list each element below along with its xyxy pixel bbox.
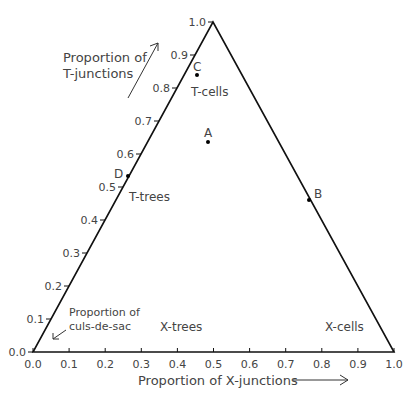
y-tick-label: 0.8	[153, 82, 171, 95]
y-tick-label: 0.2	[45, 280, 63, 293]
x-tick-label: 0.8	[313, 358, 331, 371]
x-tick-label: 1.0	[385, 358, 403, 371]
x-tick-label: 0.1	[60, 358, 78, 371]
corner-label-line2: culs-de-sac	[69, 320, 131, 333]
x-tick-label: 0.6	[241, 358, 259, 371]
corner-arrow-icon	[53, 330, 66, 339]
region-label-xcells: X-cells	[325, 320, 364, 334]
x-tick-label: 0.3	[133, 358, 151, 371]
x-tick-label: 0.0	[24, 358, 42, 371]
x-tick-label: 0.5	[205, 358, 223, 371]
corner-label-line1: Proportion of	[69, 306, 141, 319]
x-tick-label: 0.9	[349, 358, 367, 371]
point-d-label: D	[114, 167, 123, 181]
y-tick-label: 1.0	[189, 16, 207, 29]
point-b-label: B	[314, 187, 322, 201]
y-tick-label: 0.5	[99, 181, 117, 194]
point-a	[206, 140, 210, 144]
y-tick-label: 0.6	[117, 148, 135, 161]
y-tick-label: 0.7	[135, 115, 153, 128]
y-axis-label-line2: T-junctions	[62, 66, 134, 81]
point-b	[307, 198, 311, 202]
ternary-chart: 0.00.10.20.30.40.50.60.70.80.91.0 0.00.1…	[0, 0, 415, 399]
point-c-label: C	[193, 60, 201, 74]
region-label-tcells: T-cells	[190, 85, 228, 99]
point-d	[126, 174, 130, 178]
y-tick-label: 0.9	[171, 49, 189, 62]
x-tick-label: 0.4	[169, 358, 187, 371]
x-axis-arrow-icon	[293, 375, 348, 385]
x-tick-label: 0.2	[96, 358, 114, 371]
y-tick-label: 0.4	[81, 214, 99, 227]
y-tick-label: 0.0	[9, 346, 27, 359]
y-tick-label: 0.1	[27, 313, 45, 326]
x-axis-label: Proportion of X-junctions	[138, 373, 298, 388]
region-label-xtrees: X-trees	[160, 320, 202, 334]
point-a-label: A	[204, 126, 213, 140]
region-label-ttrees: T-trees	[128, 190, 170, 204]
x-tick-label: 0.7	[277, 358, 295, 371]
y-tick-label: 0.3	[63, 247, 81, 260]
y-axis-label-line1: Proportion of	[63, 50, 147, 65]
